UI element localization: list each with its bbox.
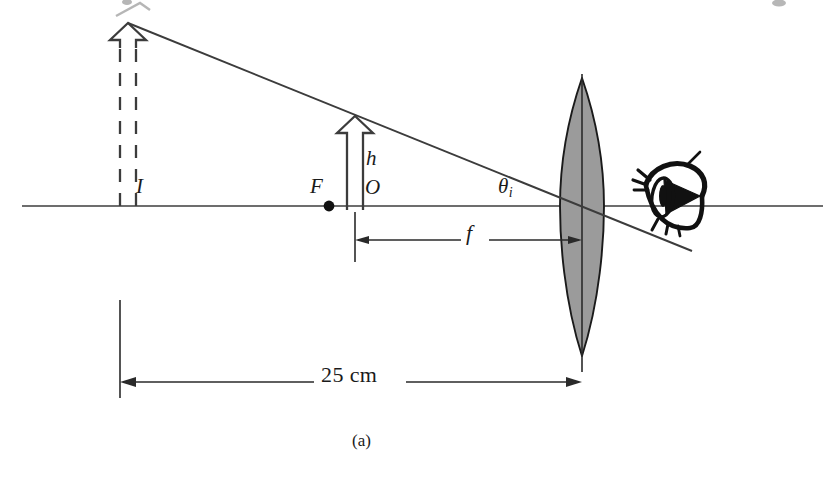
theta-subscript: i (509, 185, 513, 200)
chief-ray (128, 23, 692, 251)
figure-caption: (a) (352, 432, 371, 449)
label-image-point: I (136, 176, 143, 197)
eye-icon (633, 152, 705, 236)
optics-figure: I F h O f θi 25 cm (a) (0, 0, 840, 494)
focal-point-marker (324, 201, 335, 212)
theta-glyph: θ (498, 174, 508, 198)
ray-diagram-canvas (0, 0, 840, 494)
label-near-point-distance: 25 cm (321, 364, 377, 386)
label-focal-point: F (310, 176, 323, 197)
converging-lens-icon (560, 74, 604, 372)
label-focal-length: f (466, 222, 472, 244)
label-object-height: h (366, 148, 377, 169)
label-object-point: O (365, 177, 380, 198)
scan-artifacts (116, 0, 786, 16)
label-incident-angle: θi (498, 176, 513, 200)
